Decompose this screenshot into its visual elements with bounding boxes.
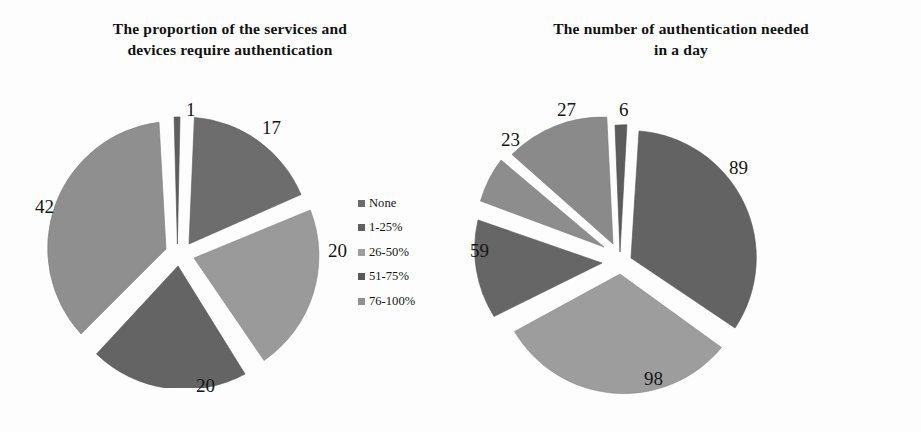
pie-value-label-1-25: 17 bbox=[262, 117, 281, 139]
pie-left-slices bbox=[48, 117, 319, 388]
chart-title-left-line2: devices require authentication bbox=[10, 39, 450, 60]
pie-value-label-none: 1 bbox=[186, 99, 196, 121]
legend-label-1-25: 1-25% bbox=[369, 220, 403, 235]
pie-left-svg bbox=[28, 108, 328, 388]
pie-value-label-51-75: 20 bbox=[196, 375, 215, 397]
page-title-right: The number of authentication needed in a… bbox=[466, 18, 896, 60]
legend-label-51-75: 51-75% bbox=[369, 269, 409, 284]
chart-title-right-line1: The number of authentication needed bbox=[466, 18, 896, 39]
pie-right-slices bbox=[475, 117, 757, 393]
legend-item-1-25[interactable]: 1-25% bbox=[358, 220, 454, 235]
pie-slice-never[interactable] bbox=[615, 125, 627, 252]
pie-value-label-76-100: 42 bbox=[35, 196, 54, 218]
chart-title-left-line1: The proportion of the services and bbox=[10, 18, 450, 39]
pie-slice-none[interactable] bbox=[174, 117, 180, 244]
legend-label-26-50: 26-50% bbox=[369, 245, 409, 260]
chart-panel-authentication-count: The number of authentication needed in a… bbox=[460, 0, 921, 432]
legend-swatch-icon bbox=[358, 200, 365, 207]
legend-item-51-75[interactable]: 51-75% bbox=[358, 269, 454, 284]
legend-item-76-100[interactable]: 76-100% bbox=[358, 294, 454, 309]
pie-value-label-too-many: 27 bbox=[557, 99, 576, 121]
pie-chart-right bbox=[470, 108, 770, 398]
pie-value-label-frequently: 59 bbox=[470, 240, 489, 262]
legend-left: None 1-25% 26-50% 51-75% 76-100% bbox=[358, 196, 454, 318]
pie-value-label-sometimes: 98 bbox=[644, 368, 663, 390]
pie-value-label-rarely: 89 bbox=[729, 157, 748, 179]
pie-right-svg bbox=[470, 108, 770, 398]
chart-title-right-line2: in a day bbox=[466, 39, 896, 60]
legend-item-26-50[interactable]: 26-50% bbox=[358, 245, 454, 260]
chart-panel-proportion: The proportion of the services and devic… bbox=[0, 0, 460, 432]
legend-item-none[interactable]: None bbox=[358, 196, 454, 211]
legend-swatch-icon bbox=[358, 224, 365, 231]
legend-swatch-icon bbox=[358, 273, 365, 280]
legend-label-none: None bbox=[369, 196, 396, 211]
pie-value-label-never: 6 bbox=[619, 99, 629, 121]
pie-value-label-26-50: 20 bbox=[328, 240, 347, 262]
legend-label-76-100: 76-100% bbox=[369, 294, 415, 309]
page-title-left: The proportion of the services and devic… bbox=[10, 18, 450, 60]
legend-swatch-icon bbox=[358, 298, 365, 305]
pie-chart-left bbox=[28, 108, 328, 388]
pie-value-label-very-frequent: 23 bbox=[501, 129, 520, 151]
legend-swatch-icon bbox=[358, 249, 365, 256]
figure-container: The proportion of the services and devic… bbox=[0, 0, 921, 432]
